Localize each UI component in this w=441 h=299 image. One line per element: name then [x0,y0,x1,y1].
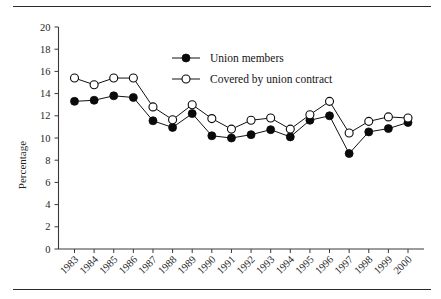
x-tick-label: 1986 [117,254,140,277]
data-point-covered-by-contract-1991 [227,125,235,133]
x-tick-label: 1995 [293,254,316,277]
data-point-covered-by-contract-1990 [208,115,216,123]
x-tick-label: 1985 [97,254,120,277]
y-tick-label: 18 [40,44,51,55]
y-tick-label: 2 [45,221,50,232]
data-point-covered-by-contract-1988 [169,116,177,124]
data-point-covered-by-contract-1992 [247,116,255,124]
data-point-covered-by-contract-1987 [149,103,157,111]
data-point-union-members-1987 [149,117,157,125]
chart-legend: Union membersCovered by union contract [172,52,333,86]
data-point-union-members-1991 [227,134,235,142]
y-tick-label: 16 [40,66,51,77]
x-tick-label: 1984 [77,253,100,276]
data-point-union-members-1999 [384,125,392,133]
data-point-covered-by-contract-1999 [384,113,392,121]
x-tick-label: 1994 [274,253,297,276]
y-axis-ticks: 02468101214161820 [40,22,59,255]
data-point-union-members-1993 [267,126,275,134]
data-point-union-members-1986 [129,93,137,101]
x-tick-label: 1991 [215,254,238,277]
x-tick-label: 1988 [156,254,179,277]
x-tick-label: 1990 [195,254,218,277]
data-point-union-members-1996 [326,112,334,120]
legend-marker-filled-circle-icon [182,54,190,62]
chart-svg: Percentage 02468101214161820 19831984198… [0,0,441,299]
data-point-union-members-1997 [345,150,353,158]
data-point-covered-by-contract-1989 [188,101,196,109]
x-tick-label: 1983 [58,254,81,277]
data-point-union-members-1988 [169,123,177,131]
y-tick-label: 20 [40,22,51,33]
line-chart: Percentage 02468101214161820 19831984198… [0,0,441,299]
y-tick-label: 12 [40,110,51,121]
data-point-union-members-1983 [71,97,79,105]
data-point-covered-by-contract-2000 [404,114,412,122]
data-point-covered-by-contract-1983 [71,74,79,82]
data-point-covered-by-contract-1994 [286,125,294,133]
data-point-covered-by-contract-1996 [326,97,334,105]
data-point-covered-by-contract-1993 [267,114,275,122]
legend-marker-open-circle-icon [182,75,190,83]
series-line-covered-by-contract [75,78,409,133]
data-point-covered-by-contract-1995 [306,111,314,119]
y-tick-label: 8 [45,155,50,166]
data-point-union-members-1984 [90,96,98,104]
legend-label-1: Covered by union contract [210,73,333,86]
legend-label-0: Union members [210,52,284,64]
data-series-group [71,74,413,157]
y-axis-title: Percentage [16,141,28,189]
data-point-union-members-1990 [208,132,216,140]
data-point-union-members-1994 [286,133,294,141]
x-tick-label: 2000 [391,254,414,277]
y-tick-label: 0 [45,244,50,255]
x-tick-label: 1999 [372,254,395,277]
x-axis-ticks: 1983198419851986198719881989199019911992… [58,249,414,276]
data-point-union-members-1985 [110,92,118,100]
data-point-covered-by-contract-1984 [90,81,98,89]
data-point-union-members-1989 [188,110,196,118]
y-tick-label: 6 [45,177,50,188]
data-point-covered-by-contract-1998 [365,117,373,125]
x-tick-label: 1993 [254,254,277,277]
x-tick-label: 1996 [313,254,336,277]
x-tick-label: 1997 [332,254,355,277]
figure-container: Percentage 02468101214161820 19831984198… [0,0,441,299]
data-point-union-members-1992 [247,131,255,139]
data-point-union-members-1998 [365,128,373,136]
data-point-covered-by-contract-1985 [110,74,118,82]
x-tick-label: 1989 [175,254,198,277]
x-tick-label: 1987 [136,254,159,277]
y-tick-label: 4 [45,199,51,210]
data-point-covered-by-contract-1986 [129,74,137,82]
y-tick-label: 14 [40,88,51,99]
x-tick-label: 1992 [234,254,257,277]
x-tick-label: 1998 [352,254,375,277]
data-point-covered-by-contract-1997 [345,129,353,137]
y-tick-label: 10 [40,133,51,144]
